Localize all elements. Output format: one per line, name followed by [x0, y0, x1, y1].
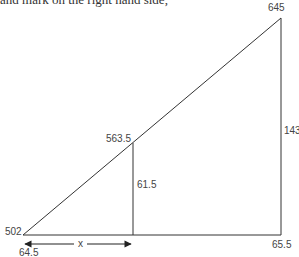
label-mid-height: 61.5	[137, 179, 157, 190]
label-right-bottom: 65.5	[272, 239, 292, 250]
label-distance: x	[78, 238, 83, 249]
hypotenuse-line	[23, 18, 281, 235]
label-mid-point: 563.5	[106, 133, 131, 144]
label-left-bottom: 64.5	[19, 247, 39, 257]
label-left-vertex: 502	[5, 226, 22, 237]
label-top-vertex: 645	[268, 2, 285, 13]
triangle-diagram: 645 563.5 61.5 143 502 64.5 65.5 x	[0, 0, 299, 257]
label-right-height: 143	[284, 125, 299, 136]
